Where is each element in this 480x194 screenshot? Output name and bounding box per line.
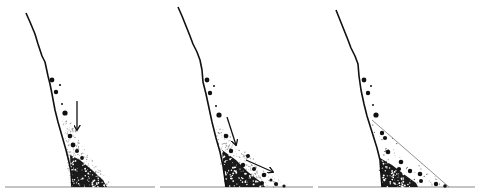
rockfall-talus-figure: Three-panel sketch of rockfall talus acc…: [0, 0, 480, 194]
boulder: [246, 154, 250, 158]
boulder: [362, 78, 367, 83]
boulder: [282, 184, 285, 187]
boulder: [408, 169, 412, 173]
boulder: [61, 103, 63, 105]
boulder: [216, 112, 221, 117]
panel-talus-slope: [318, 10, 475, 188]
motion-arrow-icon: [227, 117, 236, 145]
cliff-face-line: [26, 13, 72, 187]
boulder: [208, 91, 212, 95]
boulder: [383, 136, 387, 140]
cliff-face-line: [336, 10, 382, 187]
boulder: [205, 78, 210, 83]
boulder: [50, 78, 55, 83]
figure-canvas: [0, 0, 480, 194]
boulder: [80, 156, 84, 160]
boulder: [252, 167, 256, 171]
boulder: [380, 131, 384, 135]
boulder: [262, 173, 267, 178]
boulder: [419, 179, 423, 183]
panel-initial-rockfall: [5, 13, 155, 188]
boulder: [59, 84, 61, 86]
boulder: [370, 85, 372, 87]
boulder: [229, 149, 233, 153]
boulder: [372, 104, 374, 106]
cliff-face-line: [178, 7, 226, 187]
boulder: [386, 150, 391, 155]
boulder: [260, 181, 264, 185]
boulder: [373, 112, 378, 117]
boulder: [62, 110, 67, 115]
boulder: [68, 134, 73, 139]
boulder: [399, 160, 404, 165]
boulder: [397, 167, 401, 171]
boulder: [71, 143, 76, 148]
boulder: [215, 105, 217, 107]
boulder: [366, 91, 370, 95]
panel-rolling-debris: [160, 7, 313, 188]
debris-pile: [70, 155, 107, 187]
motion-arrow-icon: [246, 160, 273, 172]
boulder: [418, 172, 423, 177]
boulder: [241, 163, 245, 167]
boulder: [443, 184, 447, 188]
boulder: [213, 85, 215, 87]
boulder: [75, 149, 79, 153]
boulder: [224, 134, 229, 139]
boulder: [434, 182, 438, 186]
boulder: [270, 179, 273, 182]
boulder: [274, 182, 278, 186]
boulder: [54, 90, 58, 94]
